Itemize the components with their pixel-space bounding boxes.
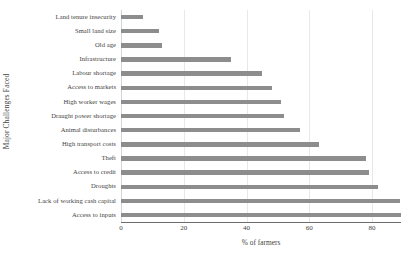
bar-row [121,67,401,81]
bar [121,170,369,174]
x-tick-label: 0 [119,224,123,232]
category-label: Droughts [14,180,119,194]
category-label: High worker wages [14,95,119,109]
bar-row [121,208,401,222]
bar-row [121,137,401,151]
category-label: Theft [14,151,119,165]
bar [121,100,281,104]
bar [121,29,159,33]
bar-row [121,109,401,123]
category-axis-labels: Land tenure insecuritySmall land sizeOld… [14,10,119,222]
y-axis-title: Major Challenges Faced [0,0,14,222]
category-label: Animal disturbances [14,123,119,137]
bar [121,57,231,61]
bar-row [121,151,401,165]
bar-row [121,95,401,109]
bar [121,156,366,160]
bar-row [121,10,401,24]
category-label: Access to credit [14,166,119,180]
bar [121,142,319,146]
bar-row [121,123,401,137]
bar [121,86,272,90]
bar [121,199,400,203]
plot-area [121,10,401,222]
bar-row [121,194,401,208]
x-tick-label: 20 [180,224,187,232]
x-axis-title: % of farmers [121,238,401,247]
bar-row [121,81,401,95]
category-label: Draught power shortage [14,109,119,123]
x-tick-label: 80 [369,224,376,232]
bar-row [121,180,401,194]
bar [121,185,378,189]
category-label: Access to markets [14,81,119,95]
bar-row [121,24,401,38]
category-label: Labour shortage [14,67,119,81]
bar [121,114,284,118]
bar-chart: Major Challenges Faced Land tenure insec… [0,0,411,265]
bar-series [121,10,401,222]
bar [121,213,401,217]
category-label: Lack of working cash capital [14,194,119,208]
bar [121,15,143,19]
bar-row [121,38,401,52]
x-axis-tick-labels: 020406080 [121,224,401,236]
bar-row [121,166,401,180]
x-axis-line [121,222,401,223]
category-label: Small land size [14,24,119,38]
category-label: Land tenure insecurity [14,10,119,24]
category-label: Old age [14,38,119,52]
bar-row [121,52,401,66]
y-axis-title-text: Major Challenges Faced [3,73,12,149]
bar [121,71,262,75]
x-tick-label: 40 [243,224,250,232]
category-label: High transport costs [14,137,119,151]
bar [121,43,162,47]
x-tick-label: 60 [306,224,313,232]
category-label: Infrastructure [14,52,119,66]
category-label: Access to inputs [14,208,119,222]
bar [121,128,300,132]
